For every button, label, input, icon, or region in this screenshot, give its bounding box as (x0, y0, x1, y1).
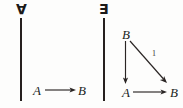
arrow-right-btop-to-bbottom-diagonal (130, 41, 167, 83)
object-label-right-b-bottom: B (170, 86, 178, 99)
arrow-right-a-to-bbottom (133, 89, 167, 94)
arrow-right-btop-to-a (123, 41, 128, 84)
object-label-left-a: A (33, 84, 41, 97)
arrow-left-a-to-b (45, 87, 76, 92)
object-label-right-b-top: B (122, 28, 130, 41)
there-exists-quantifier-symbol: ∃ (99, 2, 109, 16)
diagonal-arrow-label-one: 1 (152, 50, 156, 58)
figure-canvas: ∀ A B ∃ B A B 1 (0, 0, 183, 108)
panel-separator-rule-left (20, 18, 22, 101)
for-all-quantifier-symbol: ∀ (16, 2, 27, 16)
object-label-right-a: A (122, 86, 130, 99)
panel-separator-rule-right (103, 18, 105, 101)
object-label-left-b: B (78, 84, 86, 97)
